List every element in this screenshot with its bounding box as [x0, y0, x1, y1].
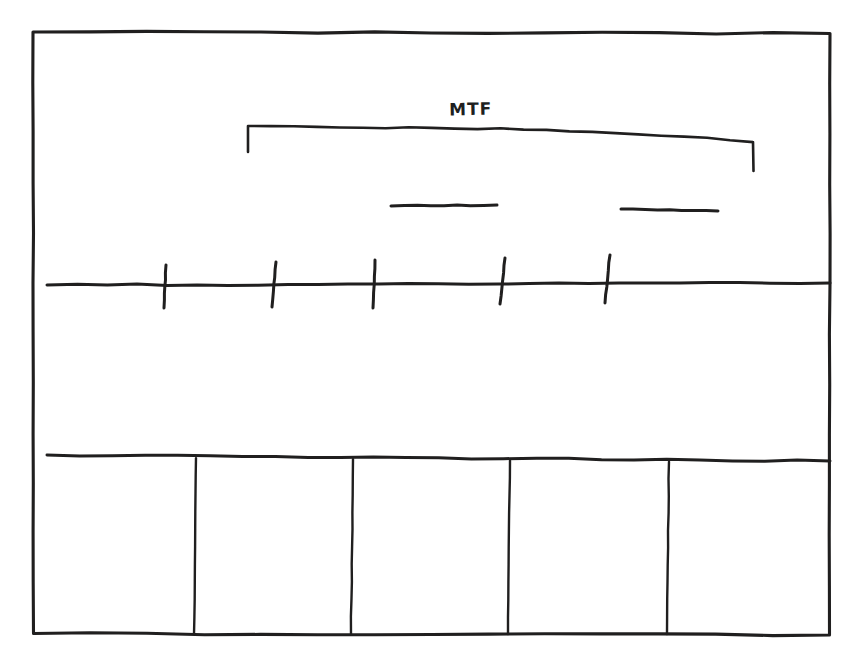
dash-right — [621, 209, 718, 211]
outer-border-frame — [33, 31, 830, 635]
table-divider-4 — [667, 462, 669, 634]
mtf-span-bracket — [248, 126, 754, 171]
sketch-drawing — [0, 0, 863, 668]
table-divider-2 — [351, 459, 353, 634]
mtf-label: MTF — [449, 99, 493, 120]
axis-tick-4 — [500, 258, 505, 304]
axis-tick-1 — [164, 265, 166, 308]
axis-tick-3 — [373, 260, 375, 308]
table-divider-1 — [194, 458, 196, 634]
axis-tick-5 — [605, 255, 610, 303]
figure-canvas: MTF — [0, 0, 863, 668]
table-divider-3 — [508, 461, 510, 635]
table-top-rule — [47, 455, 830, 461]
dash-left — [391, 205, 497, 206]
